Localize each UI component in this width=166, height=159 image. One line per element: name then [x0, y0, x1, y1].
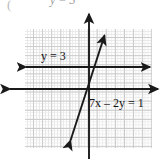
- line-7x-minus-2y-equals-1: [71, 36, 105, 141]
- label-7x-minus-2y-equals-1: 7x – 2y = 1: [89, 96, 144, 111]
- graph-screenshot: ( y = 3 y = 3 7x – 2y = 1: [0, 0, 166, 159]
- coordinate-graph: y = 3 7x – 2y = 1: [0, 0, 166, 159]
- label-y-equals-3: y = 3: [41, 49, 66, 64]
- graph-lines-layer: [0, 0, 166, 159]
